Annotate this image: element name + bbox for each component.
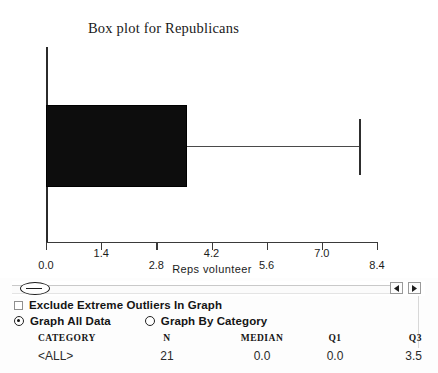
table-cell-median: 0.0 [254,349,271,363]
x-tick-mark-6 [377,242,378,250]
x-tick-mark-4 [267,242,268,250]
statistics-table: CATEGORY N MEDIAN Q1 Q3 <ALL> 21 0.0 0.0… [0,333,438,373]
graph-mode-radio-group: Graph All Data Graph By Category [14,315,267,327]
x-tick-label-0: 0.0 [38,259,53,271]
x-tick-label-6: 8.4 [369,259,384,271]
horizontal-scrollbar[interactable] [12,281,425,296]
graph-all-data-radio[interactable] [14,316,24,326]
graph-by-category-option[interactable]: Graph By Category [145,315,268,327]
x-axis-label: Reps volunteer [172,263,252,275]
table-cell-n: 21 [160,349,173,363]
x-tick-label-5: 7.0 [314,247,329,259]
exclude-outliers-label: Exclude Extreme Outliers In Graph [29,299,222,311]
triangle-left-icon [394,285,400,292]
exclude-outliers-checkbox-row[interactable]: Exclude Extreme Outliers In Graph [14,299,222,311]
exclude-outliers-checkbox[interactable] [14,301,23,310]
chart-panel: Box plot for Republicans 0.0 1.4 2.8 4.2… [0,0,438,278]
scrollbar-thumb[interactable] [20,282,50,295]
triangle-right-icon [412,285,418,292]
boxplot-upper-whisker-line [187,146,360,147]
graph-by-category-radio[interactable] [145,316,155,326]
x-tick-mark-0 [46,242,47,250]
table-header-category: CATEGORY [38,333,96,343]
scrollbar-track[interactable] [12,285,392,294]
x-tick-label-3: 4.2 [204,247,219,259]
x-tick-mark-2 [156,242,157,250]
x-tick-label-2: 2.8 [149,259,164,271]
scrollbar-left-arrow-button[interactable] [390,282,403,294]
scrollbar-right-arrow-button[interactable] [408,282,421,294]
x-tick-label-4: 5.6 [259,259,274,271]
table-header-q1: Q1 [328,333,341,343]
table-cell-q1: 0.0 [327,349,344,363]
graph-all-data-label[interactable]: Graph All Data [30,315,111,327]
boxplot-box [46,105,187,187]
table-header-n: N [163,333,170,343]
table-header-q3: Q3 [409,333,422,343]
table-cell-q3: 3.5 [405,349,422,363]
x-tick-label-1: 1.4 [94,247,109,259]
table-row: <ALL> [38,349,73,363]
graph-by-category-label[interactable]: Graph By Category [161,315,268,327]
plot-area: 0.0 1.4 2.8 4.2 5.6 7.0 8.4 Reps volunte… [0,0,438,278]
boxplot-application-window: Box plot for Republicans 0.0 1.4 2.8 4.2… [0,0,438,373]
boxplot-upper-whisker-cap [359,119,361,175]
table-header-median: MEDIAN [241,333,284,343]
